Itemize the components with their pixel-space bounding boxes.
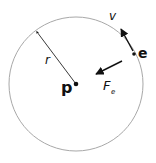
force-subscript: e [111,88,115,96]
electron-label: e [138,45,148,61]
electron-dot [132,52,136,56]
force-arrow [96,61,122,74]
proton-dot [74,82,79,87]
velocity-label: v [109,9,117,23]
radius-label: r [45,53,51,67]
radius-line [37,32,76,84]
orbit-diagram: r p e v F e [0,0,156,163]
proton-label: p [61,78,72,97]
velocity-arrow [121,29,133,51]
force-label: F [103,78,111,93]
